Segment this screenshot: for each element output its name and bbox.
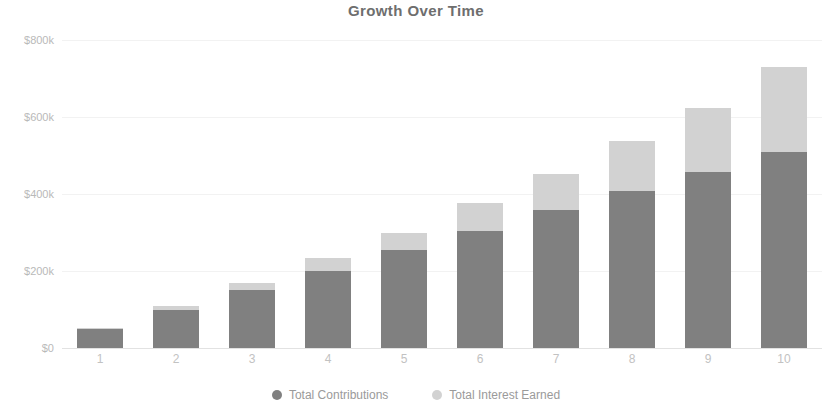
legend-item-label: Total Contributions [289, 388, 388, 402]
chart-title: Growth Over Time [0, 2, 832, 19]
bar-segment-contributions[interactable] [381, 250, 427, 348]
bar-segment-interest[interactable] [685, 108, 731, 172]
bar-segment-contributions[interactable] [685, 172, 731, 348]
y-axis-tick-label: $0 [0, 342, 54, 354]
bar-segment-interest[interactable] [229, 283, 275, 290]
bar-stack[interactable] [685, 108, 731, 348]
bar-stack[interactable] [229, 283, 275, 348]
x-axis-tick-label: 3 [222, 352, 282, 366]
x-axis-tick-label: 8 [602, 352, 662, 366]
gridline [62, 40, 822, 41]
x-axis-tick-label: 5 [374, 352, 434, 366]
bar-segment-contributions[interactable] [761, 152, 807, 348]
legend-item[interactable]: Total Contributions [272, 388, 388, 402]
y-axis-tick-label: $200k [0, 265, 54, 277]
bar-stack[interactable] [533, 174, 579, 348]
bar-segment-contributions[interactable] [609, 191, 655, 348]
bar-segment-contributions[interactable] [153, 310, 199, 349]
bar-segment-interest[interactable] [153, 306, 199, 309]
bar-segment-contributions[interactable] [533, 210, 579, 348]
bar-segment-contributions[interactable] [457, 231, 503, 348]
growth-over-time-chart: Growth Over Time $0$200k$400k$600k$800k … [0, 0, 832, 408]
x-axis-tick-label: 10 [754, 352, 814, 366]
bar-segment-interest[interactable] [381, 233, 427, 250]
bar-segment-contributions[interactable] [229, 290, 275, 348]
legend-item[interactable]: Total Interest Earned [432, 388, 560, 402]
bar-segment-contributions[interactable] [305, 271, 351, 348]
bar-stack[interactable] [609, 141, 655, 348]
bar-stack[interactable] [381, 233, 427, 349]
x-axis-tick-label: 6 [450, 352, 510, 366]
bar-segment-interest[interactable] [305, 258, 351, 271]
x-axis-tick-label: 2 [146, 352, 206, 366]
chart-legend: Total ContributionsTotal Interest Earned [0, 388, 832, 402]
circle-marker [432, 390, 442, 400]
bar-stack[interactable] [305, 258, 351, 348]
bar-segment-interest[interactable] [533, 174, 579, 211]
bar-stack[interactable] [153, 306, 199, 348]
bar-segment-interest[interactable] [761, 67, 807, 152]
bar-segment-contributions[interactable] [77, 329, 123, 348]
x-axis-tick-label: 4 [298, 352, 358, 366]
plot-area [62, 40, 822, 348]
x-axis-tick-label: 1 [70, 352, 130, 366]
bar-stack[interactable] [77, 328, 123, 348]
y-axis-tick-label: $600k [0, 111, 54, 123]
bar-stack[interactable] [761, 67, 807, 348]
bar-segment-interest[interactable] [77, 328, 123, 329]
bar-stack[interactable] [457, 203, 503, 348]
x-axis-tick-label: 7 [526, 352, 586, 366]
circle-marker [272, 390, 282, 400]
x-axis-tick-label: 9 [678, 352, 738, 366]
legend-item-label: Total Interest Earned [449, 388, 560, 402]
bar-segment-interest[interactable] [609, 141, 655, 191]
y-axis-tick-label: $400k [0, 188, 54, 200]
bar-segment-interest[interactable] [457, 203, 503, 231]
y-axis-tick-label: $800k [0, 34, 54, 46]
x-axis-baseline [62, 348, 822, 349]
